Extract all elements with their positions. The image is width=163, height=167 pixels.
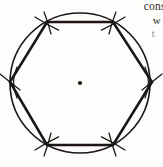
- hexagon-construction-figure: const w t: [0, 0, 163, 167]
- caption-text-block: const w t: [103, 0, 163, 41]
- arc-at-bottom-right-icon: [101, 133, 125, 153]
- arc-at-bottom-left-icon: [35, 133, 59, 153]
- caption-line-2: w: [103, 14, 161, 28]
- center-dot: [78, 81, 82, 85]
- arc-at-right-cross-icon: [142, 74, 162, 90]
- arc-at-top-left-icon: [35, 13, 59, 33]
- caption-line-1: const: [103, 0, 163, 14]
- caption-line-3: t: [103, 27, 155, 41]
